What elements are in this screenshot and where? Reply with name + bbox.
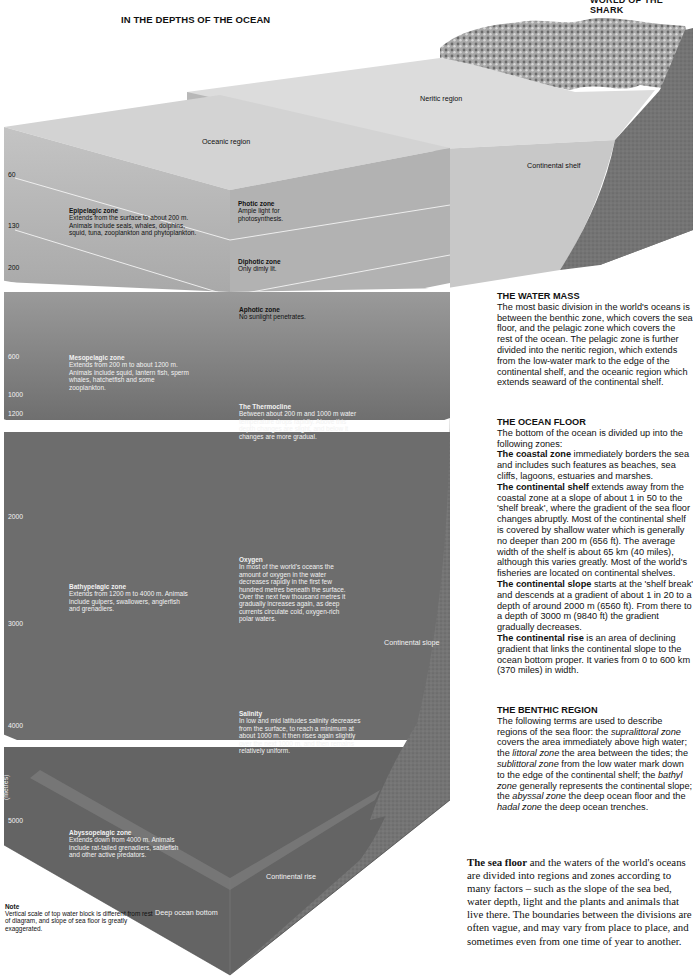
floor-item-continental-shelf: The continental shelf extends away from … <box>497 482 693 579</box>
floor-item-continental-rise: The continental rise is an area of decli… <box>497 633 693 676</box>
term-italic: littoral zone <box>512 748 559 758</box>
label-continental-rise: Continental rise <box>266 872 316 881</box>
term-italic: abyssal zone <box>512 791 566 801</box>
zone-text: Extends from the surface to about 200 m.… <box>69 214 196 236</box>
zone-title: Bathypelagic zone <box>69 583 189 590</box>
intro-lead: The sea floor <box>467 856 527 868</box>
zone-title: Abyssopelagic zone <box>69 829 189 836</box>
property-text: Between about 200 m and 1000 m water tem… <box>239 410 356 439</box>
zone-text: Extends from 200 m to about 1200 m. Anim… <box>69 361 189 390</box>
floor-item-coastal-zone: The coastal zone immediately borders the… <box>497 449 693 481</box>
intro-paragraph: The sea floor and the waters of the worl… <box>467 856 693 948</box>
section-benthic-region: THE BENTHIC REGION The following terms a… <box>497 705 693 813</box>
label-oceanic-region: Oceanic region <box>202 137 250 146</box>
property-title: Salinity <box>239 710 364 717</box>
property-salinity: Salinity In low and mid latitudes salini… <box>239 710 364 754</box>
property-thermocline: The Thermocline Between about 200 m and … <box>239 403 364 440</box>
depth-unit-label: (metres) <box>2 775 9 800</box>
zone-bathypelagic: Bathypelagic zone Extends from 1200 m to… <box>69 583 189 613</box>
section-heading: THE WATER MASS <box>497 291 693 302</box>
depth-tick: 60 <box>8 171 16 178</box>
floor-item-continental-slope: The continental slope starts at the 'she… <box>497 579 693 633</box>
note-title: Note <box>5 903 155 910</box>
depth-tick: 1000 <box>8 391 23 398</box>
zone-title: Epipelagic zone <box>69 207 199 214</box>
property-title: Oxygen <box>239 556 354 563</box>
label-continental-shelf: Continental shelf <box>527 161 581 170</box>
section-heading: THE BENTHIC REGION <box>497 705 693 716</box>
light-zone-photic: Photic zone Ample light for photosynthes… <box>238 200 318 222</box>
zone-text: Extends from 1200 m to 4000 m. Animals i… <box>69 590 188 612</box>
definition: extends away from the coastal zone at a … <box>497 482 690 578</box>
section-ocean-floor: THE OCEAN FLOOR The bottom of the ocean … <box>497 417 693 676</box>
zone-title: Mesopelagic zone <box>69 354 189 361</box>
depth-tick: 5000 <box>8 817 23 824</box>
diagram-note: Note Vertical scale of top water block i… <box>5 903 155 932</box>
term-italic: hadal zone <box>497 802 542 812</box>
section-intro: The bottom of the ocean is divided up in… <box>497 428 693 450</box>
property-oxygen: Oxygen In most of the world's oceans the… <box>239 556 354 623</box>
light-zone-diphotic: Diphotic zone Only dimly lit. <box>238 258 318 273</box>
property-title: The Thermocline <box>239 403 364 410</box>
label-neritic-region: Neritic region <box>420 94 462 103</box>
zone-title: Photic zone <box>238 200 318 207</box>
depth-tick: 3000 <box>8 620 23 627</box>
page-title: IN THE DEPTHS OF THE OCEAN <box>121 14 270 25</box>
depth-tick: 130 <box>8 222 19 229</box>
depth-tick: 1200 <box>8 410 23 417</box>
note-text: Vertical scale of top water block is dif… <box>5 910 153 931</box>
section-water-mass: THE WATER MASS The most basic division i… <box>497 291 693 388</box>
light-zone-aphotic: Aphotic zone No sunlight penetrates. <box>239 306 329 321</box>
term-italic: sublittoral zone <box>497 759 559 769</box>
zone-text: Extends down from 4000 m. Animals includ… <box>69 836 178 858</box>
depth-tick: 4000 <box>8 722 23 729</box>
zone-mesopelagic: Mesopelagic zone Extends from 200 m to a… <box>69 354 189 391</box>
zone-title: Diphotic zone <box>238 258 318 265</box>
term: The coastal zone <box>497 449 571 459</box>
zone-text: Ample light for photosynthesis. <box>238 207 283 221</box>
label-continental-slope: Continental slope <box>384 638 440 647</box>
term: The continental rise <box>497 633 584 643</box>
zone-title: Aphotic zone <box>239 306 329 313</box>
label-deep-ocean-bottom: Deep ocean bottom <box>155 908 218 917</box>
term: The continental slope <box>497 579 591 589</box>
depth-tick: 200 <box>8 264 19 271</box>
zone-epipelagic: Epipelagic zone Extends from the surface… <box>69 207 199 237</box>
property-text: In low and mid latitudes salinity decrea… <box>239 717 360 754</box>
text-run: the deep ocean floor and the <box>566 791 686 801</box>
zone-abyssopelagic: Abyssopelagic zone Extends down from 400… <box>69 829 189 859</box>
text-run: the area between the tides; the <box>559 748 688 758</box>
text-run: the deep ocean trenches. <box>542 802 648 812</box>
section-text: The most basic division in the world's o… <box>497 302 693 388</box>
term-italic: supralittoral zone <box>611 727 681 737</box>
term: The continental shelf <box>497 482 589 492</box>
depth-tick: 600 <box>8 353 19 360</box>
zone-text: No sunlight penetrates. <box>239 313 306 320</box>
depth-tick: 2000 <box>8 513 23 520</box>
zone-text: Only dimly lit. <box>238 265 277 272</box>
section-text: The following terms are used to describe… <box>497 716 693 813</box>
property-text: In most of the world's oceans the amount… <box>239 563 346 622</box>
section-heading: THE OCEAN FLOOR <box>497 417 693 428</box>
intro-text: and the waters of the world's oceans are… <box>467 856 692 947</box>
running-head: WORLD OF THE SHARK <box>590 0 693 15</box>
